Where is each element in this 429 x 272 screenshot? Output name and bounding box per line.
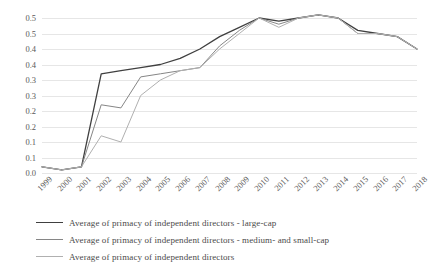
series-lines <box>42 18 417 173</box>
y-axis-tick-label: 0.0 <box>25 169 36 177</box>
x-axis-tick-label: 2000 <box>55 174 74 193</box>
x-axis-tick-label: 2004 <box>134 174 153 193</box>
legend-line-swatch <box>36 222 63 223</box>
x-axis: 1999200020012002200320042005200620072008… <box>42 174 417 210</box>
y-axis-tick-label: 0.1 <box>25 138 36 146</box>
x-axis-tick-label: 2018 <box>410 174 429 193</box>
y-axis-tick-label: 0.2 <box>25 123 36 131</box>
x-axis-tick-label: 2011 <box>272 174 291 193</box>
x-axis-tick-label: 2008 <box>213 174 232 193</box>
legend-item-label: Average of primacy of independent direct… <box>69 218 276 228</box>
y-axis-tick-label: 0.3 <box>25 92 36 100</box>
x-axis-tick-label: 2012 <box>292 174 311 193</box>
plot-area <box>42 18 417 173</box>
x-axis-tick-label: 2010 <box>252 174 271 193</box>
x-axis-tick-label: 2015 <box>351 174 370 193</box>
x-axis-tick-label: 2009 <box>232 174 251 193</box>
x-axis-tick-label: 2002 <box>94 174 113 193</box>
x-axis-tick-label: 2016 <box>370 174 389 193</box>
legend-line-swatch <box>36 239 63 240</box>
y-axis-tick-label: 0.5 <box>25 14 36 22</box>
y-axis: 0.50.50.40.40.30.30.20.20.10.10.0 <box>0 0 40 173</box>
legend-item[interactable]: Average of primacy of independent direct… <box>0 248 424 265</box>
y-axis-tick-label: 0.5 <box>25 30 36 38</box>
y-axis-tick-label: 0.3 <box>25 76 36 84</box>
series-line <box>42 15 417 170</box>
x-axis-tick-label: 2014 <box>331 174 350 193</box>
legend-item-label: Average of primacy of independent direct… <box>69 235 329 245</box>
chart-legend: Average of primacy of independent direct… <box>0 214 424 265</box>
legend-item[interactable]: Average of primacy of independent direct… <box>0 231 424 248</box>
y-axis-tick-label: 0.4 <box>25 45 36 53</box>
x-axis-tick-label: 2005 <box>153 174 172 193</box>
legend-item-label: Average of primacy of independent direct… <box>69 252 234 262</box>
legend-item[interactable]: Average of primacy of independent direct… <box>0 214 424 231</box>
x-axis-tick-label: 2001 <box>74 174 93 193</box>
x-axis-tick-label: 2013 <box>311 174 330 193</box>
x-axis-tick-label: 2007 <box>193 174 212 193</box>
y-axis-tick-label: 0.1 <box>25 154 36 162</box>
x-axis-tick-label: 2017 <box>390 174 409 193</box>
x-axis-tick-label: 1999 <box>35 174 54 193</box>
y-axis-tick-label: 0.2 <box>25 107 36 115</box>
y-axis-tick-label: 0.4 <box>25 61 36 69</box>
x-axis-tick-label: 2006 <box>173 174 192 193</box>
legend-line-swatch <box>36 256 63 257</box>
x-axis-tick-label: 2003 <box>114 174 133 193</box>
